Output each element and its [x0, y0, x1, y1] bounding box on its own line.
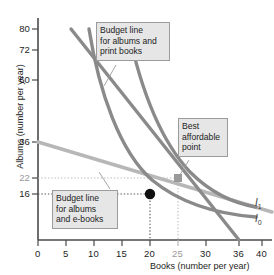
x-tick-0: 0 [35, 249, 40, 259]
x-tick-30: 30 [200, 249, 211, 259]
x-tick-10: 10 [88, 249, 99, 259]
callout-budget-line-print-books: Budget line for albums and print books [96, 22, 170, 61]
curve-label-i1-sub: 1 [258, 203, 262, 210]
callout-budget-line-ebooks: Budget line for albums and e-books [52, 190, 118, 229]
x-tick-15: 15 [116, 249, 127, 259]
x-tick-36: 36 [233, 249, 244, 259]
x-tick-20: 20 [144, 249, 155, 259]
economics-budget-indifference-figure: 80 72 60 36 22 16 0 5 10 15 20 25 30 36 … [0, 0, 274, 275]
y-axis-title: Albums (number per year) [16, 42, 25, 192]
leader-ebooks [99, 172, 110, 189]
x-axis-title: Books (number per year) [150, 262, 250, 271]
x-tick-40: 40 [256, 249, 267, 259]
callout-best-affordable-point: Best affordable point [178, 118, 228, 157]
curve-label-i1: I1 [255, 198, 262, 210]
x-tick-5: 5 [63, 249, 68, 259]
y-tick-80: 80 [10, 24, 30, 34]
curve-label-i0-sub: 0 [258, 219, 262, 226]
x-tick-marks [38, 240, 262, 246]
x-tick-25: 25 [172, 249, 183, 259]
curve-label-i0: I0 [255, 214, 262, 226]
y-tick-marks [32, 29, 38, 194]
consumption-point-dot [145, 189, 155, 199]
